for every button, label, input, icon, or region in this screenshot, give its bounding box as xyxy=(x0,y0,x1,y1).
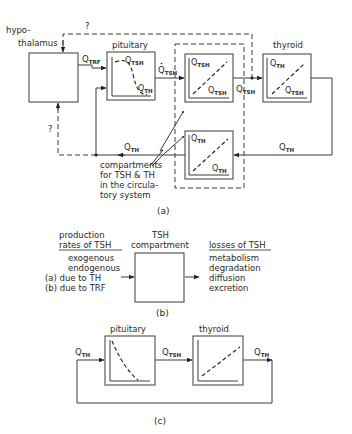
pointer-to-tsh-compartment xyxy=(150,112,183,166)
output-item-4: excretion xyxy=(209,283,248,293)
output-item-1: metabolism xyxy=(209,253,259,263)
qdot-tsh-dot xyxy=(161,63,163,65)
panel-c: pituitary thyroid QTSH QTH QTH (c) xyxy=(75,324,272,426)
q-tsh-label-c: QTSH xyxy=(162,347,181,358)
input-item-3: (a) due to TH xyxy=(45,273,101,283)
panel-b: production rates of TSH exogenous endoge… xyxy=(45,230,271,318)
hypothalamus-box xyxy=(29,53,78,102)
compartment-title-2: compartment xyxy=(131,240,189,250)
unknown-top-label: ? xyxy=(85,21,90,31)
q-th-label: QTH xyxy=(124,142,139,153)
input-item-1: exogenous xyxy=(68,253,115,263)
tsh-compartment-box-b xyxy=(135,253,184,302)
caption-a: (a) xyxy=(157,206,170,216)
caption-c: (c) xyxy=(154,416,166,426)
annotation-line-2: for TSH & TH xyxy=(100,170,155,180)
annotation-line-4: tory system xyxy=(100,190,151,200)
unknown-left-label: ? xyxy=(48,124,53,134)
production-title-1: production xyxy=(59,230,105,240)
thyroid-label: thyroid xyxy=(273,40,303,50)
pituitary-label: pituitary xyxy=(112,40,148,50)
dashed-feedback-left xyxy=(58,106,96,155)
qdot-th-label: QTH xyxy=(279,142,294,153)
junction-dot-tsh xyxy=(250,76,253,79)
q-th-input-label-c: QTH xyxy=(75,347,90,358)
output-item-2: degradation xyxy=(209,263,261,273)
trf-arrow xyxy=(78,65,106,68)
output-item-3: diffusion xyxy=(209,273,245,283)
hypothalamus-label-1: hypo- xyxy=(6,25,30,35)
input-item-4: (b) due to TRF xyxy=(45,283,106,293)
panel-a: ? hypo- thalamus QTRF pituitary QTSH QTH… xyxy=(6,21,332,216)
q-tsh-label: QTSH xyxy=(236,84,255,95)
q-th-output-label-c: QTH xyxy=(254,347,269,358)
production-title-2: rates of TSH xyxy=(59,240,111,250)
pointer-dot-1 xyxy=(182,111,184,113)
input-item-2: endogenous xyxy=(68,263,121,273)
pituitary-label-c: pituitary xyxy=(110,324,146,334)
annotation-line-1: compartments xyxy=(100,160,163,170)
compartment-title-1: TSH xyxy=(151,230,169,240)
hypothalamus-label-2: thalamus xyxy=(18,38,58,48)
thyroid-box-c xyxy=(193,336,243,385)
losses-title: losses of TSH xyxy=(209,240,266,250)
q-trf-label: QTRF xyxy=(82,54,101,65)
thyroid-regulation-diagram: ? hypo- thalamus QTRF pituitary QTSH QTH… xyxy=(0,0,352,434)
annotation-line-3: in the circula- xyxy=(100,180,158,190)
caption-b: (b) xyxy=(156,308,169,318)
pointer-dot-2 xyxy=(182,136,184,138)
thyroid-label-c: thyroid xyxy=(199,324,229,334)
